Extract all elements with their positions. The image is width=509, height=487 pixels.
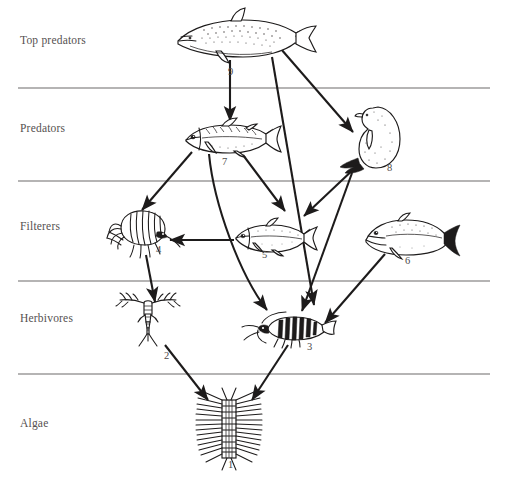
food-web-diagram: Top predators Predators Filterers Herbiv… — [0, 0, 509, 487]
organism-number-6: 6 — [405, 255, 410, 266]
organism-amphipod — [107, 211, 180, 258]
organism-orca — [178, 8, 316, 63]
organism-number-8: 8 — [387, 162, 392, 173]
organism-number-1: 1 — [228, 459, 233, 470]
organism-number-4: 4 — [156, 244, 161, 255]
organism-number-3: 3 — [307, 341, 312, 352]
organism-baleen-fish — [366, 213, 460, 259]
organism-number-9: 9 — [228, 66, 233, 77]
organism-krill — [242, 312, 336, 348]
organism-number-2: 2 — [164, 350, 169, 361]
organism-copepod — [116, 293, 180, 346]
level-label-algae: Algae — [20, 417, 48, 429]
organism-small-fish — [236, 218, 317, 256]
level-label-filterers: Filterers — [20, 220, 60, 232]
organism-diatom-chain — [196, 388, 262, 470]
organism-number-7: 7 — [222, 156, 227, 167]
organism-illustrations-layer — [0, 0, 509, 487]
level-label-top-predators: Top predators — [20, 34, 86, 46]
level-label-herbivores: Herbivores — [20, 312, 73, 324]
level-label-predators: Predators — [20, 122, 65, 134]
organism-number-5: 5 — [262, 249, 267, 260]
organism-predator-fish — [186, 118, 281, 157]
